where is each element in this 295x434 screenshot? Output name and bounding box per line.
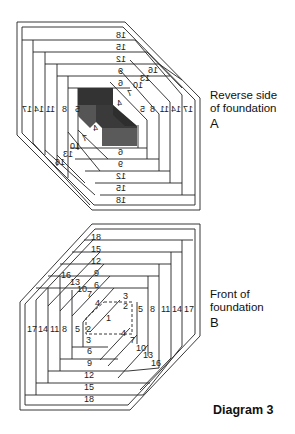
label-rev-9-top: 9 (118, 66, 123, 76)
label-rev-8-right: 8 (150, 104, 155, 114)
fabric-piece-light-bottom (102, 128, 137, 146)
label-left-8: 8 (62, 324, 67, 334)
label-rev-12-top: 12 (116, 54, 126, 64)
label-rev-12-bottom: 12 (116, 171, 126, 181)
label-top-9: 9 (94, 268, 99, 278)
caption-a-line1: Reverse side (210, 89, 277, 101)
caption-a-line2: of foundation (210, 102, 277, 114)
label-bottom-6: 6 (87, 346, 92, 356)
label-left-14: 14 (38, 324, 48, 334)
label-bottom-12: 12 (84, 370, 94, 380)
label-center-1: 1 (106, 313, 111, 323)
label-rev-16b: 16 (55, 157, 65, 167)
label-rev-5-left: 5 (75, 104, 80, 114)
label-diag-13a: 13 (70, 277, 80, 287)
label-inner-3b: 3 (86, 335, 91, 345)
caption-reverse-side: Reverse side of foundation A (210, 89, 277, 130)
label-rev-18-top: 18 (116, 30, 126, 40)
label-diag-7b: 7 (130, 335, 135, 345)
label-rev-17-left: 17 (22, 104, 32, 114)
label-left-5: 5 (75, 324, 80, 334)
label-left-11: 11 (50, 324, 59, 334)
label-rev-14-left: 14 (34, 104, 44, 114)
label-top-15: 15 (91, 244, 101, 254)
label-rev-6-bottom: 6 (118, 147, 123, 157)
caption-b-line2: foundation (210, 301, 264, 313)
label-diag-4b: 4 (121, 328, 126, 338)
label-rev-7a: 7 (127, 88, 132, 98)
label-right-11: 11 (161, 304, 170, 314)
label-top-3: 3 (123, 291, 128, 301)
panel-letter-b: B (210, 316, 264, 329)
label-right-14: 14 (172, 304, 182, 314)
label-top-12: 12 (91, 256, 101, 266)
label-rev-7b: 7 (82, 133, 87, 143)
label-top-6: 6 (94, 280, 99, 290)
label-diag-4a: 4 (95, 298, 100, 308)
diagram-canvas: 18 15 12 9 6 3 2 17 14 11 8 5 2 3 1 5 8 … (0, 0, 295, 434)
front-labels: 18 15 12 9 6 3 2 17 14 11 8 5 2 3 1 5 8 … (27, 232, 194, 404)
label-rev-11-right: 11 (160, 104, 169, 114)
label-bottom-9: 9 (87, 358, 92, 368)
label-right-8: 8 (150, 304, 155, 314)
label-rev-4a: 4 (117, 98, 122, 108)
label-diag-16b: 16 (151, 358, 161, 368)
label-inner-2a: 2 (123, 301, 128, 311)
label-left-17: 17 (27, 324, 37, 334)
label-rev-8-left: 8 (62, 104, 67, 114)
label-bottom-18: 18 (84, 394, 94, 404)
label-top-18: 18 (91, 232, 101, 242)
label-inner-2b: 2 (86, 324, 91, 334)
label-rev-6-top: 6 (118, 78, 123, 88)
label-rev-18-bottom: 18 (116, 195, 126, 205)
label-rev-15-top: 15 (116, 42, 126, 52)
label-rev-14-right: 14 (171, 104, 181, 114)
caption-front: Front of foundation B (210, 288, 264, 329)
label-rev-9-bottom: 9 (118, 159, 123, 169)
fabric-piece-dark-top (78, 88, 113, 105)
label-rev-17-right: 17 (183, 104, 193, 114)
label-rev-5-right: 5 (140, 104, 145, 114)
label-diag-16a: 16 (61, 270, 71, 280)
label-right-5: 5 (138, 304, 143, 314)
panel-letter-a: A (210, 117, 277, 130)
diagram-title: Diagram 3 (213, 403, 273, 417)
label-rev-10a: 10 (133, 80, 143, 90)
label-bottom-15: 15 (84, 382, 94, 392)
label-rev-4b: 4 (93, 123, 98, 133)
caption-b-line1: Front of (210, 288, 250, 300)
label-diag-7a: 7 (87, 289, 92, 299)
label-rev-11-left: 11 (46, 104, 55, 114)
label-right-17: 17 (184, 304, 194, 314)
label-rev-15-bottom: 15 (116, 183, 126, 193)
